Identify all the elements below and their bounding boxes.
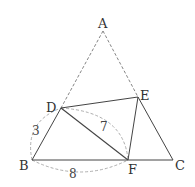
segment-DF — [61, 108, 128, 160]
arc-BF-measure — [32, 160, 128, 172]
segment-AE-dashed — [103, 31, 138, 97]
label-D: D — [46, 100, 56, 115]
label-C: C — [175, 158, 185, 173]
measure-BF: 8 — [69, 167, 77, 181]
segment-EF — [128, 97, 138, 160]
label-B: B — [19, 158, 29, 173]
segment-ED — [61, 97, 138, 108]
geometry-diagram: A B C D E F 3 7 8 — [0, 0, 195, 187]
label-A: A — [97, 16, 108, 31]
label-F: F — [128, 162, 137, 177]
segment-CE — [138, 97, 173, 160]
segment-AD-dashed — [61, 31, 103, 108]
measure-DF: 7 — [100, 120, 108, 134]
label-E: E — [140, 88, 150, 103]
measure-BD: 3 — [32, 124, 40, 138]
